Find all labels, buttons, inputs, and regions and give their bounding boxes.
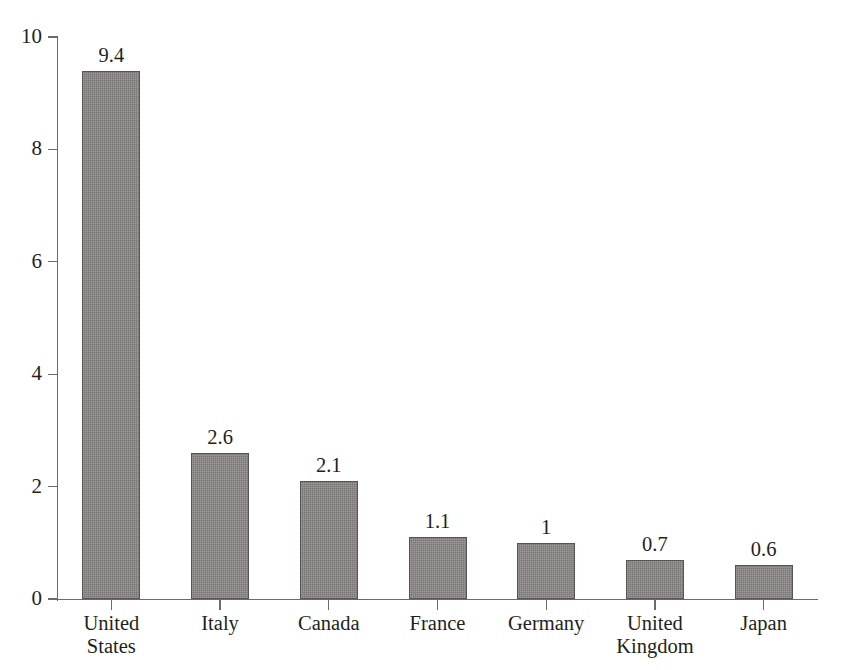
y-axis-tick-label: 2 bbox=[32, 476, 43, 497]
y-axis-tick bbox=[48, 149, 57, 150]
x-axis-tick bbox=[111, 600, 112, 610]
plot-area: 0246810 9.4United States2.6Italy2.1Canad… bbox=[0, 0, 848, 670]
y-axis-line bbox=[57, 36, 58, 601]
y-axis-tick bbox=[48, 36, 57, 37]
bar-value-label: 2.1 bbox=[284, 455, 374, 476]
bar bbox=[191, 453, 249, 599]
bar bbox=[82, 71, 140, 599]
y-axis-tick bbox=[48, 598, 57, 599]
bar bbox=[735, 565, 793, 599]
bar-value-label: 0.7 bbox=[610, 534, 700, 555]
bar-value-label: 1.1 bbox=[393, 511, 483, 532]
bar-chart-figure: 0246810 9.4United States2.6Italy2.1Canad… bbox=[0, 0, 848, 670]
y-axis-tick-label: 10 bbox=[21, 26, 42, 47]
x-axis-category-label: United States bbox=[57, 612, 165, 657]
bar-value-label: 2.6 bbox=[175, 427, 265, 448]
x-axis-category-label: United Kingdom bbox=[601, 612, 709, 657]
bar bbox=[517, 543, 575, 599]
bar-value-label: 9.4 bbox=[66, 45, 156, 66]
y-axis-tick-label: 0 bbox=[32, 588, 43, 609]
x-axis-tick bbox=[328, 600, 329, 610]
y-axis-tick-label: 6 bbox=[32, 251, 43, 272]
x-axis-tick bbox=[546, 600, 547, 610]
x-axis-category-label: Germany bbox=[492, 612, 600, 635]
bar bbox=[626, 560, 684, 599]
y-axis-tick bbox=[48, 486, 57, 487]
y-axis-tick bbox=[48, 374, 57, 375]
bar-value-label: 0.6 bbox=[719, 539, 809, 560]
x-axis-category-label: Japan bbox=[710, 612, 818, 635]
bar bbox=[300, 481, 358, 599]
x-axis-category-label: Italy bbox=[166, 612, 274, 635]
x-axis-category-label: France bbox=[384, 612, 492, 635]
x-axis-tick bbox=[437, 600, 438, 610]
x-axis-category-label: Canada bbox=[275, 612, 383, 635]
caption-remnant bbox=[0, 655, 848, 670]
x-axis-tick bbox=[654, 600, 655, 610]
x-axis-tick bbox=[219, 600, 220, 610]
y-axis-tick-label: 8 bbox=[32, 138, 43, 159]
bar bbox=[409, 537, 467, 599]
x-axis-tick bbox=[763, 600, 764, 610]
bar-value-label: 1 bbox=[501, 517, 591, 538]
y-axis-tick-label: 4 bbox=[32, 363, 43, 384]
y-axis-tick bbox=[48, 261, 57, 262]
